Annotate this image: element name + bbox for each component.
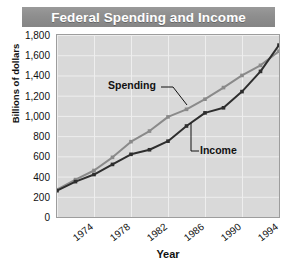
- x-axis-tick-label: 1986: [182, 221, 206, 243]
- x-axis-tick-label: 1982: [145, 221, 169, 243]
- page-title: Federal Spending and Income: [51, 10, 246, 25]
- y-axis-tick-label: 1,600: [14, 50, 50, 61]
- y-axis-tick-label: 0: [14, 212, 50, 223]
- chart-canvas: [57, 35, 279, 217]
- series-label-spending: Spending: [108, 79, 156, 91]
- plot-area: [56, 34, 280, 218]
- y-axis-tick-labels: 02004006008001,0001,2001,4001,6001,800: [14, 0, 50, 269]
- x-axis-tick-label: 1978: [108, 221, 132, 243]
- y-axis-tick-label: 600: [14, 151, 50, 162]
- x-axis-tick-label: 1974: [71, 221, 95, 243]
- chart-title-bar: Federal Spending and Income: [22, 7, 275, 27]
- y-axis-tick-label: 400: [14, 171, 50, 182]
- series-label-income: Income: [200, 144, 237, 156]
- y-axis-tick-label: 1,800: [14, 30, 50, 41]
- y-axis-tick-label: 200: [14, 191, 50, 202]
- x-axis-tick-label: 1994: [256, 221, 280, 243]
- chart-figure: Federal Spending and Income Billions of …: [0, 0, 293, 269]
- x-axis-tick-label: 1990: [219, 221, 243, 243]
- y-axis-tick-label: 1,400: [14, 70, 50, 81]
- y-axis-tick-label: 800: [14, 131, 50, 142]
- y-axis-tick-label: 1,200: [14, 90, 50, 101]
- x-axis-title: Year: [56, 248, 280, 260]
- y-axis-tick-label: 1,000: [14, 110, 50, 121]
